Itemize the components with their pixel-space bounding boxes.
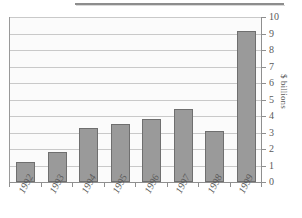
x-tick-5 [167,183,168,187]
y-tick-label-9: 9 [269,29,274,39]
y-tick-7 [261,67,266,68]
x-tick-3 [104,183,105,187]
x-tick-2 [72,183,73,187]
y-tick-label-5: 5 [269,95,274,105]
bar-chart-figure: 012345678910 $ billions 1992199319941995… [0,0,302,218]
x-tick-1 [41,183,42,187]
y-tick-1 [261,166,266,167]
bar-1999 [237,31,256,182]
x-tick-8 [261,183,262,187]
y-tick-5 [261,100,266,101]
y-tick-label-0: 0 [269,177,274,187]
y-tick-label-4: 4 [269,111,274,121]
y-tick-3 [261,133,266,134]
y-tick-label-6: 6 [269,78,274,88]
bar-1997 [174,109,193,182]
y-tick-label-1: 1 [269,161,274,171]
bars-group [10,17,261,182]
y-tick-2 [261,149,266,150]
x-tick-7 [230,183,231,187]
y-tick-4 [261,116,266,117]
y-tick-label-8: 8 [269,45,274,55]
plot-area [9,17,261,182]
y-tick-6 [261,83,266,84]
y-tick-10 [261,17,266,18]
x-tick-6 [198,183,199,187]
y-axis-title: $ billions [279,74,289,134]
y-tick-label-10: 10 [269,12,279,22]
y-tick-label-3: 3 [269,128,274,138]
y-tick-label-2: 2 [269,144,274,154]
x-tick-4 [135,183,136,187]
y-tick-8 [261,50,266,51]
top-divider-rule-shadow [76,5,285,6]
y-tick-label-7: 7 [269,62,274,72]
y-tick-9 [261,34,266,35]
x-tick-0 [9,183,10,187]
